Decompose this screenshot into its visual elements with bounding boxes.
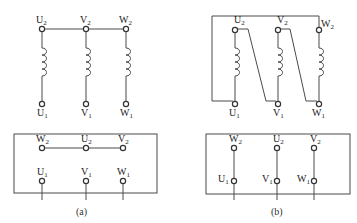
label-u1: U1 <box>229 107 240 120</box>
label-w2: W2 <box>119 14 132 27</box>
caption-a: (a) <box>76 206 87 218</box>
terminal-u1 <box>39 101 44 106</box>
coil-u-icon <box>42 48 47 76</box>
terminal-v1 <box>275 101 280 106</box>
box-a-label-w1: W1 <box>117 166 130 179</box>
coil-u-icon <box>235 48 240 76</box>
box-b-label-v1: V1 <box>262 173 273 186</box>
terminal-w1 <box>123 101 128 106</box>
label-w1: W1 <box>312 107 325 120</box>
panel-b-terminal-box: W2 U2 V2 U1 V1 W1 <box>206 133 350 200</box>
coil-w-icon <box>319 48 324 76</box>
box-b-label-w2: W2 <box>229 133 242 146</box>
box-a-label-v2: V2 <box>118 133 129 146</box>
terminal-v2 <box>275 27 280 32</box>
panel-b-windings: U2 V2 W2 U1 V1 W1 <box>212 14 334 120</box>
terminal-u2 <box>39 26 44 31</box>
box-b-label-u1: U1 <box>218 173 229 186</box>
terminal-w2 <box>123 26 128 31</box>
terminal-v1 <box>83 101 88 106</box>
label-u1: U1 <box>37 107 48 120</box>
box-a-label-u1: U1 <box>37 166 48 179</box>
label-u2: U2 <box>36 14 47 27</box>
coil-v-icon <box>86 48 91 76</box>
terminal-u1 <box>232 101 237 106</box>
box-b-label-v2: V2 <box>310 133 321 146</box>
box-a-label-v1: V1 <box>81 166 92 179</box>
terminal-v2 <box>83 26 88 31</box>
terminal-w1 <box>316 101 321 106</box>
panel-a-terminal-box: W2 U2 V2 U1 V1 W1 <box>14 133 157 200</box>
winding-connection-diagram: U2 V2 W2 U1 V1 W1 W2 U2 V2 U1 V1 W1 (a) <box>0 0 357 223</box>
label-w1: W1 <box>120 107 133 120</box>
box-a-label-u2: U2 <box>81 133 92 146</box>
caption-b: (b) <box>271 206 283 218</box>
label-v2: V2 <box>80 14 91 27</box>
label-v1: V1 <box>273 107 284 120</box>
box-b-label-u2: U2 <box>273 133 284 146</box>
panel-a-windings: U2 V2 W2 U1 V1 W1 <box>36 14 133 120</box>
terminal-u2 <box>232 27 237 32</box>
box-a-label-w2: W2 <box>36 133 49 146</box>
coil-w-icon <box>126 48 131 76</box>
diagonal-v2-w1 <box>280 29 317 101</box>
diagonal-u2-v1 <box>237 29 276 101</box>
label-v1: V1 <box>81 107 92 120</box>
coil-v-icon <box>278 48 283 76</box>
label-w2: W2 <box>321 18 334 31</box>
box-b-label-w1: W1 <box>297 173 310 186</box>
